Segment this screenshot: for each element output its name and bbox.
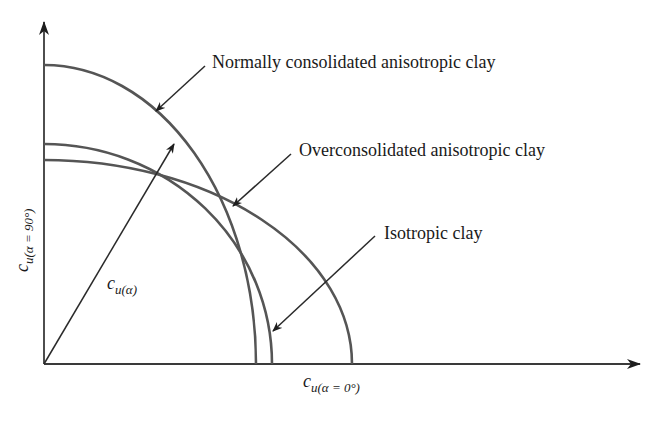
x-axis-label-sub: u(α = 0°)	[311, 380, 360, 395]
y-axis-label-sub: u(α = 90°)	[21, 209, 36, 264]
svg-text:cu(α = 90°): cu(α = 90°)	[12, 209, 36, 272]
isotropic-curve	[44, 144, 272, 364]
overconsolidated-curve	[44, 160, 352, 364]
isotropic-label: Isotropic clay	[384, 223, 482, 243]
vector-label-main: c	[107, 273, 115, 293]
strength-vector-arrow	[44, 144, 174, 364]
normally-consolidated-leader-arrow	[156, 66, 205, 111]
y-axis-label: cu(α = 90°)	[12, 209, 36, 272]
overconsolidated-leader-arrow	[233, 154, 291, 206]
x-axis-label-main: c	[303, 371, 311, 391]
normally-consolidated-curve	[44, 65, 256, 364]
anisotropy-diagram: Normally consolidated anisotropic clay O…	[0, 0, 662, 421]
vector-label-sub: u(α)	[115, 282, 137, 297]
overconsolidated-label: Overconsolidated anisotropic clay	[299, 140, 545, 160]
strength-vector-label: cu(α)	[107, 273, 137, 297]
y-axis-label-main: c	[12, 264, 32, 272]
isotropic-leader-arrow	[273, 236, 375, 331]
x-axis-label: cu(α = 0°)	[303, 371, 360, 395]
normally-consolidated-label: Normally consolidated anisotropic clay	[212, 52, 495, 72]
